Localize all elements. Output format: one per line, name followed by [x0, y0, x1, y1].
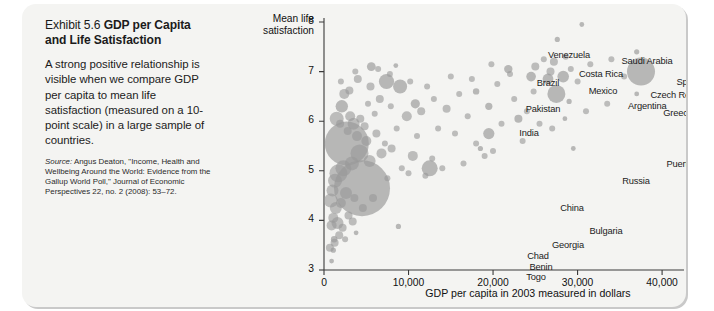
bubble: [604, 101, 610, 107]
bubble-taiwan[interactable]: [514, 115, 522, 123]
bubble: [365, 101, 371, 107]
bubble-hong-kong[interactable]: [571, 146, 576, 151]
bubble: [608, 56, 614, 62]
bubble: [352, 69, 358, 75]
bubble-georgia[interactable]: [354, 230, 359, 235]
bubble-mexico[interactable]: [393, 80, 407, 94]
bubble-chad[interactable]: [331, 236, 337, 242]
bubble: [531, 88, 537, 94]
scatter-chart: Mean life satisfaction GDP per capita in…: [218, 4, 686, 307]
bubble: [465, 113, 471, 119]
exhibit-title-lead: Exhibit 5.6: [45, 18, 104, 32]
bubble-label-pakistan: Pakistan: [526, 104, 560, 114]
bubble-korea[interactable]: [483, 128, 494, 139]
bubble-label-puerto-rico: Puerto Rico: [667, 159, 686, 169]
exhibit-card-inner: Exhibit 5.6 GDP per Capita and Life Sati…: [22, 4, 686, 307]
bubble-norway[interactable]: [634, 49, 639, 54]
bubble: [402, 111, 412, 121]
bubble-label-spain: Spain: [676, 77, 686, 87]
bubble: [490, 148, 496, 154]
bubble: [541, 56, 547, 62]
bubble: [575, 79, 581, 85]
bubble-china[interactable]: [334, 160, 390, 216]
bubble: [345, 86, 353, 94]
exhibit-page: Exhibit 5.6 GDP per Capita and Life Sati…: [0, 0, 714, 311]
bubble-kuwait[interactable]: [563, 116, 568, 121]
bubble-togo[interactable]: [329, 259, 334, 264]
bubble-pakistan[interactable]: [336, 100, 348, 112]
bubble-label-argentina: Argentina: [628, 101, 666, 111]
bubble-denmark[interactable]: [579, 22, 584, 27]
bubble: [469, 76, 475, 82]
bubble: [388, 103, 394, 109]
bubble-bulgaria[interactable]: [396, 224, 401, 229]
bubble-label-benin: Benin: [529, 262, 552, 272]
x-tick-label: 0: [294, 277, 354, 288]
bubble: [388, 145, 396, 153]
bubble-finland[interactable]: [555, 37, 560, 42]
bubble-label-brazil: Brazil: [537, 78, 559, 88]
exhibit-body: A strong positive relationship is visibl…: [45, 57, 213, 148]
bubble-label-greece: Greece: [663, 108, 686, 118]
bubble: [377, 148, 387, 158]
bubble: [394, 126, 400, 132]
bubble-greece[interactable]: [485, 103, 492, 110]
bubble: [435, 126, 441, 132]
x-tick-label: 20,000: [463, 277, 523, 288]
bubble: [431, 96, 437, 102]
bubble-brazil[interactable]: [379, 74, 394, 89]
bubble-venezuela[interactable]: [367, 62, 376, 71]
bubble-argentina[interactable]: [411, 99, 420, 108]
bubble: [375, 66, 381, 72]
bubble: [499, 121, 505, 127]
bubble-benin[interactable]: [331, 248, 336, 253]
bubble-label-russia: Russia: [622, 176, 650, 186]
bubble: [339, 224, 347, 232]
y-tick-label: 4: [298, 213, 314, 224]
bubble: [417, 107, 425, 115]
exhibit-title: Exhibit 5.6 GDP per Capita and Life Sati…: [45, 18, 213, 47]
exhibit-text-column: Exhibit 5.6 GDP per Capita and Life Sati…: [45, 18, 213, 288]
bubble: [549, 126, 555, 132]
bubble: [461, 160, 467, 166]
bubble: [399, 165, 405, 171]
bubble-label-costa-rica: Costa Rica: [579, 69, 623, 79]
bubble: [456, 91, 462, 97]
bubble: [537, 121, 543, 127]
bubble-singapore[interactable]: [567, 99, 572, 104]
bubble: [443, 105, 451, 113]
bubble-label-georgia: Georgia: [552, 240, 584, 250]
y-tick-label: 8: [298, 15, 314, 26]
bubble: [327, 220, 337, 230]
bubble: [587, 61, 593, 67]
bubble-label-china: China: [560, 203, 584, 213]
bubble: [408, 151, 418, 161]
bubble-label-venezuela: Venezuela: [548, 50, 590, 60]
bubble: [568, 66, 574, 72]
bubble: [338, 79, 344, 85]
x-tick-label: 30,000: [548, 277, 608, 288]
bubble-india[interactable]: [325, 122, 369, 166]
bubble-russia[interactable]: [422, 160, 438, 176]
bubble: [349, 217, 357, 225]
exhibit-card: Exhibit 5.6 GDP per Capita and Life Sati…: [22, 4, 686, 307]
x-tick-label: 10,000: [379, 277, 439, 288]
bubble: [376, 95, 384, 103]
bubble: [473, 141, 479, 147]
bubble: [488, 61, 494, 67]
bubble: [356, 115, 364, 123]
bubble-spain[interactable]: [526, 72, 536, 82]
bubble-costa-rica[interactable]: [393, 63, 398, 68]
y-tick-label: 7: [298, 65, 314, 76]
bubble-czech-rep[interactable]: [473, 88, 479, 94]
bubble-puerto-rico[interactable]: [478, 146, 483, 151]
bubble-label-bulgaria: Bulgaria: [590, 226, 623, 236]
bubble-label-saudi-arabia: Saudi Arabia: [622, 56, 673, 66]
bubble: [354, 75, 362, 83]
bubble: [372, 111, 378, 117]
bubble-saudi-arabia[interactable]: [504, 65, 512, 73]
x-tick-label: 40,000: [632, 277, 686, 288]
bubble: [531, 63, 539, 71]
bubble-emirates[interactable]: [634, 92, 639, 97]
y-tick-label: 6: [298, 114, 314, 125]
